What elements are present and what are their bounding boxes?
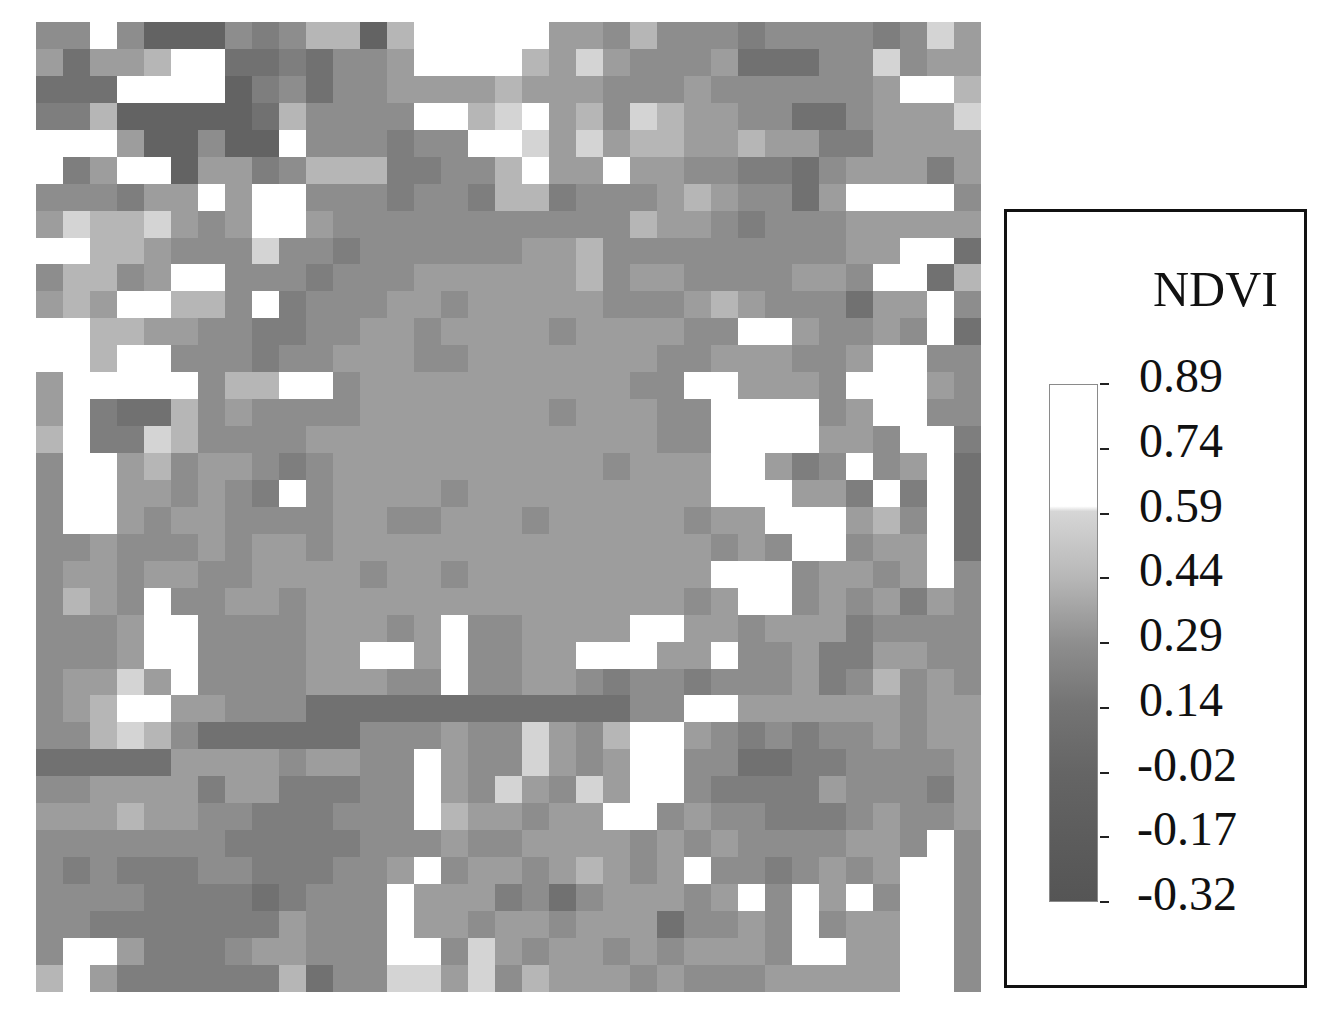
map-cell: [333, 776, 360, 803]
map-cell: [441, 453, 468, 480]
map-cell: [900, 22, 927, 49]
map-cell: [90, 938, 117, 965]
map-cell: [711, 615, 738, 642]
map-cell: [225, 184, 252, 211]
map-cell: [225, 157, 252, 184]
map-cell: [333, 884, 360, 911]
map-cell: [495, 211, 522, 238]
map-cell: [603, 426, 630, 453]
map-cell: [36, 49, 63, 76]
map-cell: [252, 76, 279, 103]
map-cell: [414, 615, 441, 642]
map-cell: [414, 695, 441, 722]
map-cell: [63, 803, 90, 830]
map-cell: [360, 426, 387, 453]
map-cell: [225, 776, 252, 803]
map-cell: [387, 211, 414, 238]
map-cell: [360, 911, 387, 938]
map-cell: [900, 830, 927, 857]
map-cell: [414, 157, 441, 184]
map-cell: [522, 22, 549, 49]
map-cell: [927, 426, 954, 453]
map-cell: [36, 722, 63, 749]
map-cell: [387, 480, 414, 507]
map-cell: [522, 938, 549, 965]
map-cell: [252, 480, 279, 507]
map-cell: [279, 426, 306, 453]
map-cell: [441, 103, 468, 130]
map-cell: [468, 722, 495, 749]
map-cell: [603, 588, 630, 615]
map-cell: [171, 49, 198, 76]
map-cell: [603, 722, 630, 749]
map-row: [36, 130, 981, 157]
map-row: [36, 695, 981, 722]
map-cell: [576, 722, 603, 749]
map-cell: [252, 184, 279, 211]
map-cell: [603, 130, 630, 157]
map-cell: [603, 157, 630, 184]
map-cell: [738, 291, 765, 318]
map-cell: [90, 534, 117, 561]
map-row: [36, 669, 981, 696]
map-cell: [387, 264, 414, 291]
map-cell: [198, 238, 225, 265]
map-cell: [630, 830, 657, 857]
map-cell: [63, 615, 90, 642]
map-cell: [441, 184, 468, 211]
map-cell: [333, 615, 360, 642]
map-cell: [873, 588, 900, 615]
map-cell: [171, 642, 198, 669]
map-cell: [711, 184, 738, 211]
map-cell: [495, 318, 522, 345]
map-cell: [927, 695, 954, 722]
map-cell: [576, 238, 603, 265]
map-cell: [495, 615, 522, 642]
map-cell: [414, 49, 441, 76]
map-cell: [495, 264, 522, 291]
map-cell: [117, 749, 144, 776]
map-cell: [846, 49, 873, 76]
map-cell: [225, 534, 252, 561]
map-cell: [846, 534, 873, 561]
map-cell: [846, 615, 873, 642]
map-cell: [333, 426, 360, 453]
map-cell: [792, 426, 819, 453]
map-cell: [360, 830, 387, 857]
map-cell: [63, 776, 90, 803]
map-cell: [576, 938, 603, 965]
map-cell: [819, 749, 846, 776]
map-cell: [603, 669, 630, 696]
map-cell: [603, 776, 630, 803]
map-cell: [711, 884, 738, 911]
map-cell: [657, 776, 684, 803]
map-cell: [927, 453, 954, 480]
map-cell: [387, 157, 414, 184]
map-cell: [846, 318, 873, 345]
map-cell: [522, 49, 549, 76]
map-cell: [657, 130, 684, 157]
map-cell: [900, 211, 927, 238]
map-cell: [117, 453, 144, 480]
map-cell: [873, 372, 900, 399]
map-cell: [657, 49, 684, 76]
map-cell: [468, 669, 495, 696]
map-cell: [630, 318, 657, 345]
map-cell: [576, 803, 603, 830]
map-cell: [576, 830, 603, 857]
map-cell: [819, 103, 846, 130]
map-cell: [144, 184, 171, 211]
map-cell: [333, 669, 360, 696]
map-cell: [441, 615, 468, 642]
map-cell: [144, 722, 171, 749]
map-cell: [441, 561, 468, 588]
map-cell: [252, 695, 279, 722]
map-cell: [198, 561, 225, 588]
colorbar-tick: [1100, 577, 1109, 579]
map-cell: [279, 211, 306, 238]
map-cell: [711, 480, 738, 507]
map-cell: [333, 399, 360, 426]
map-cell: [225, 695, 252, 722]
map-cell: [144, 211, 171, 238]
map-cell: [684, 534, 711, 561]
